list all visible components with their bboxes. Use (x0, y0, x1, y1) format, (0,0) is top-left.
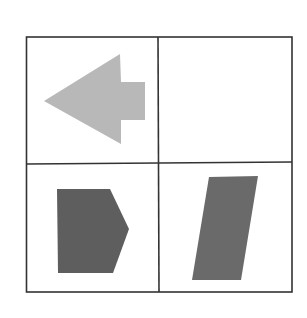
cell-bottom-left (57, 189, 129, 273)
puzzle-canvas (0, 0, 307, 318)
cell-top-right[interactable] (160, 38, 291, 161)
grid-horizontal-divider (27, 162, 293, 164)
grid-vertical-divider (158, 37, 159, 292)
left-arrow-icon (44, 54, 145, 144)
parallelogram-shape (192, 176, 258, 280)
pentagon-shape (57, 189, 129, 273)
cell-bottom-right (192, 176, 258, 280)
cell-top-left (44, 54, 145, 144)
empty-answer-cell[interactable] (160, 38, 291, 161)
